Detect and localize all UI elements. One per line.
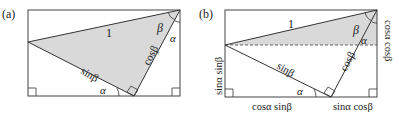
panel-b-right-edge-label: cosα cosβ [383, 20, 394, 61]
panel-b-sin-beta-label: sinβ [275, 59, 297, 79]
panel-a-label: (a) [2, 7, 15, 21]
panel-a-hypotenuse-label: 1 [106, 26, 112, 40]
panel-a-right-angle-bl [28, 88, 36, 96]
panel-a-beta-label: β [156, 21, 163, 35]
panel-b-hypotenuse-label: 1 [288, 17, 294, 31]
panel-b-bottom-right-label: sinα cosβ [333, 101, 373, 112]
trig-diagram: (a) 1 β α sinβ cosβ α (b) [0, 0, 399, 117]
panel-a-arc-alpha-top [175, 21, 180, 22]
panel-b-right-angle-br [369, 89, 377, 97]
panel-a-arc-alpha-bottom [117, 88, 119, 96]
panel-a-alpha-top-label: α [170, 32, 176, 44]
panel-a: (a) 1 β α sinβ cosβ α [2, 7, 180, 96]
panel-b-arc-alpha-bottom [314, 89, 316, 97]
panel-a-right-angle-br [172, 88, 180, 96]
panel-b-beta-label: β [352, 23, 359, 37]
panel-b-alpha-inner-label: α [361, 34, 367, 46]
panel-b-label: (b) [199, 7, 213, 21]
panel-a-alpha-bottom-label: α [100, 84, 106, 96]
panel-b-right-angle-bl [225, 89, 233, 97]
panel-b-bottom-left-label: cosα sinβ [252, 101, 292, 112]
panel-b: (b) 1 β α sinβ cosβ α sinα sinβ cosα cos… [199, 7, 394, 112]
panel-b-alpha-bottom-label: α [297, 85, 303, 97]
panel-b-left-edge-label: sinα sinβ [213, 57, 224, 95]
